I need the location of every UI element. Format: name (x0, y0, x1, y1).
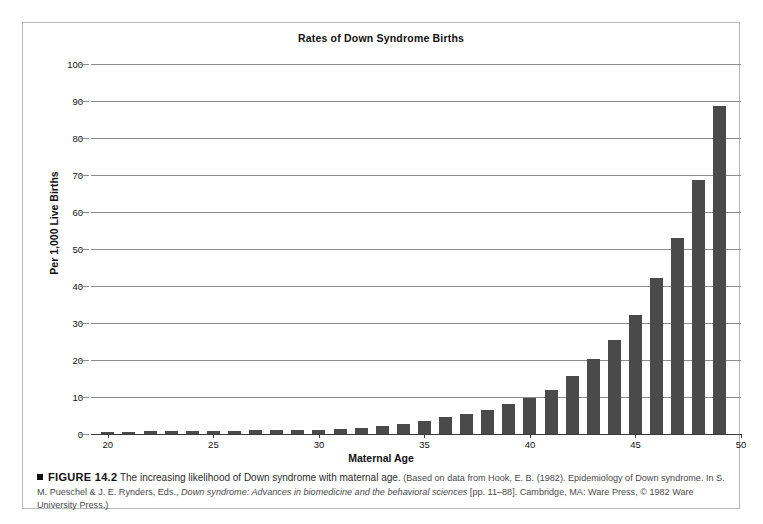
y-tick-mark-10 (80, 397, 89, 398)
bar-age-37 (460, 414, 473, 434)
figure-container: Rates of Down Syndrome Births Per 1,000 … (22, 22, 740, 509)
bar-age-40 (523, 398, 536, 434)
bar-age-43 (587, 359, 600, 434)
figure-caption-text: The increasing likelihood of Down syndro… (120, 472, 401, 483)
y-tick-mark-30 (80, 323, 89, 324)
x-tick-label-25: 25 (208, 439, 219, 450)
bar-age-46 (650, 278, 663, 434)
y-tick-mark-20 (80, 360, 89, 361)
bar-age-35 (418, 421, 431, 434)
x-tick-mark-20 (108, 434, 109, 438)
x-tick-mark-45 (635, 434, 636, 438)
x-tick-mark-50 (741, 434, 742, 438)
y-tick-mark-0 (80, 434, 89, 435)
y-axis-label: Per 1,000 Live Births (48, 171, 60, 274)
y-tick-mark-70 (80, 175, 89, 176)
figure-number: FIGURE 14.2 (48, 471, 117, 483)
bar-age-39 (502, 404, 515, 434)
x-tick-label-40: 40 (525, 439, 536, 450)
bar-age-41 (545, 390, 558, 434)
y-tick-mark-80 (80, 138, 89, 139)
bar-age-36 (439, 417, 452, 434)
y-tick-mark-100 (80, 64, 89, 65)
bar-age-42 (566, 376, 579, 434)
y-tick-mark-50 (80, 249, 89, 250)
x-axis-line (91, 434, 741, 435)
bar-age-49 (713, 106, 726, 434)
x-axis-label: Maternal Age (23, 452, 739, 464)
plot-area: 0102030405060708090100 (91, 64, 741, 434)
x-tick-mark-40 (530, 434, 531, 438)
x-tick-mark-25 (213, 434, 214, 438)
x-tick-label-50: 50 (736, 439, 747, 450)
bar-age-33 (376, 426, 389, 434)
square-bullet-icon (37, 474, 43, 480)
bar-age-38 (481, 410, 494, 434)
bar-age-45 (629, 315, 642, 434)
x-tick-mark-35 (424, 434, 425, 438)
bar-age-44 (608, 340, 621, 434)
figure-caption: FIGURE 14.2 The increasing likelihood of… (37, 471, 725, 513)
bars-group (91, 64, 741, 434)
chart-title: Rates of Down Syndrome Births (23, 32, 739, 44)
y-tick-mark-40 (80, 286, 89, 287)
figure-source-title: Down syndrome: Advances in biomedicine a… (181, 487, 467, 497)
x-tick-mark-30 (319, 434, 320, 438)
bar-age-48 (692, 180, 705, 434)
y-tick-mark-90 (80, 101, 89, 102)
x-tick-label-35: 35 (419, 439, 430, 450)
bar-age-34 (397, 424, 410, 434)
x-tick-label-45: 45 (630, 439, 641, 450)
x-tick-label-30: 30 (314, 439, 325, 450)
y-tick-mark-60 (80, 212, 89, 213)
bar-age-47 (671, 238, 684, 434)
x-tick-label-20: 20 (103, 439, 114, 450)
